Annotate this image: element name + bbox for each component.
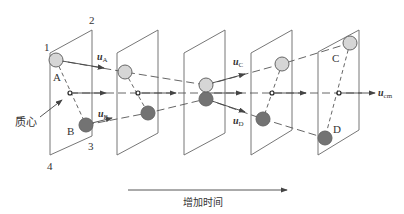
particle-a-1 [49, 53, 63, 67]
velocity-label-uc: uC [233, 56, 244, 69]
particle-a-2 [118, 65, 132, 79]
corner-label-3: 3 [88, 140, 94, 152]
velocity-label-ud: uD [233, 115, 244, 128]
particle-label-c: C [332, 52, 339, 64]
arrow-com-pointer [40, 100, 62, 117]
particle-b-2 [141, 106, 155, 120]
particle-d-4 [256, 112, 270, 126]
particle-b-3 [199, 92, 213, 106]
arrow-ud [212, 101, 245, 112]
center-of-mass-2 [136, 91, 140, 95]
corner-label-1: 1 [44, 41, 50, 53]
center-of-mass-label: 质心 [15, 116, 37, 129]
collision-diagram: 1 2 3 4 A B C D 质心 增加时间 uA uB uC uD ucm [0, 0, 404, 214]
corner-label-4: 4 [47, 160, 53, 172]
particle-c-5 [343, 36, 357, 50]
arrow-uc [212, 74, 245, 83]
time-axis-label: 增加时间 [183, 196, 223, 208]
velocity-label-ucm: ucm [378, 87, 393, 100]
particle-d-5 [318, 131, 332, 145]
corner-label-2: 2 [89, 14, 95, 26]
particle-label-b: B [67, 125, 74, 137]
velocity-label-ua: uA [97, 51, 108, 64]
arrow-ua [62, 61, 104, 68]
particle-label-d: D [333, 123, 341, 135]
velocity-label-ub: uB [98, 108, 109, 121]
particle-c-4 [275, 57, 289, 71]
particle-a-3 [199, 78, 213, 92]
center-of-mass-5 [337, 91, 341, 95]
center-of-mass-1 [68, 91, 72, 95]
particle-label-a: A [53, 71, 61, 83]
particle-b-1 [79, 118, 93, 132]
center-of-mass-4 [270, 91, 274, 95]
